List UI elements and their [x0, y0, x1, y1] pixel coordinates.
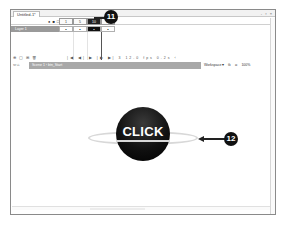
- edit-scene-icon[interactable]: ⧈: [235, 63, 237, 67]
- layer-row[interactable]: Layer 1 • • • •: [11, 26, 275, 32]
- keyframe[interactable]: •: [59, 26, 73, 32]
- timeline-header-icons: ● ■ □: [48, 19, 59, 24]
- keyframe-selected[interactable]: •: [87, 26, 101, 32]
- eye-icon[interactable]: ●: [48, 19, 50, 24]
- edit-symbols-icon[interactable]: ⧉: [228, 63, 231, 67]
- frame-header-over[interactable]: 5: [73, 18, 87, 25]
- callout-11-badge: 11: [104, 10, 118, 24]
- frame-header-up[interactable]: 1: [59, 18, 73, 25]
- horizontal-scroll-thumb[interactable]: [90, 208, 145, 210]
- layer-tools[interactable]: ⊕ ▢ ⊞ 🗑: [13, 56, 37, 60]
- ring-front-band: [116, 140, 170, 142]
- lock-icon[interactable]: ■: [52, 19, 54, 24]
- window-controls[interactable]: - ▫ ×: [261, 11, 273, 16]
- horizontal-scrollbar[interactable]: [12, 206, 274, 210]
- timeline-header: ● ■ □ 1 5 10 15: [11, 18, 275, 25]
- breadcrumb-scene[interactable]: Scene 1: [32, 63, 45, 67]
- back-icon[interactable]: ⇦ ⌂: [13, 62, 20, 67]
- vertical-scrollbar[interactable]: [270, 18, 275, 214]
- breadcrumb: Scene 1 › btn_Start: [29, 62, 201, 69]
- document-tab[interactable]: Untitled-1*: [13, 11, 40, 17]
- edit-bar: ⇦ ⌂ Scene 1 › btn_Start Workspace ▾ ⧉ ⧈ …: [11, 62, 275, 69]
- timeline-footer: ⊕ ▢ ⊞ 🗑 |◀ ◀| ▶ |▶ ▶| 3 12.0 fps 0.2s ‹: [11, 56, 275, 61]
- keyframe[interactable]: •: [101, 26, 115, 32]
- breadcrumb-symbol[interactable]: btn_Start: [48, 63, 62, 67]
- callout-12-line: [203, 138, 225, 140]
- zoom-level[interactable]: 100%: [241, 63, 250, 67]
- playback-controls[interactable]: |◀ ◀| ▶ |▶ ▶| 3 12.0 fps 0.2s ‹: [67, 56, 178, 60]
- button-label: CLICK: [116, 124, 170, 139]
- callout-12-badge: 12: [224, 132, 238, 146]
- keyframe[interactable]: •: [73, 26, 87, 32]
- document-tab-bar: Untitled-1* - ▫ ×: [11, 10, 275, 17]
- workspace-menu[interactable]: Workspace ▾: [204, 63, 224, 67]
- frame-header-down[interactable]: 10: [87, 18, 101, 25]
- edit-bar-right: Workspace ▾ ⧉ ⧈ 100%: [204, 63, 250, 67]
- layer-name[interactable]: Layer 1: [11, 26, 59, 32]
